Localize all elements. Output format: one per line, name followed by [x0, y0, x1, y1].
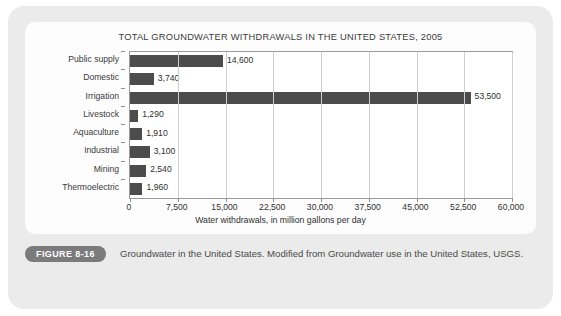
- y-axis-tick: [121, 142, 125, 143]
- bar: [130, 128, 142, 140]
- y-axis-category-label: Industrial: [84, 145, 119, 155]
- y-axis-tick: [121, 106, 125, 107]
- x-axis-tick-label: 52,500: [450, 202, 476, 212]
- bar-value-label: 53,500: [475, 91, 501, 101]
- y-axis-tick: [121, 124, 125, 125]
- chart-panel: TOTAL GROUNDWATER WITHDRAWALS IN THE UNI…: [25, 22, 536, 234]
- figure-number-badge: FIGURE 8-16: [25, 246, 106, 262]
- y-axis-tick: [121, 69, 125, 70]
- bar: [130, 110, 138, 122]
- bar: [130, 55, 223, 67]
- x-axis-title: Water withdrawals, in million gallons pe…: [25, 215, 536, 225]
- bar: [130, 146, 150, 158]
- figure-card: TOTAL GROUNDWATER WITHDRAWALS IN THE UNI…: [8, 6, 553, 309]
- bar-value-label: 1,960: [146, 182, 168, 192]
- x-axis-tick-label: 60,000: [498, 202, 524, 212]
- gridline: [321, 52, 322, 198]
- gridline: [464, 52, 465, 198]
- gridline: [417, 52, 418, 198]
- bar-value-label: 3,100: [154, 146, 176, 156]
- x-axis-tick-label: 45,000: [402, 202, 428, 212]
- x-axis-tick-label: 22,500: [259, 202, 285, 212]
- x-axis-tick-label: 7,500: [166, 202, 188, 212]
- x-axis-tick-label: 15,000: [211, 202, 237, 212]
- bar-value-label: 1,910: [146, 128, 168, 138]
- y-axis-category-label: Public supply: [68, 54, 119, 64]
- bar-value-label: 3,740: [158, 73, 180, 83]
- x-axis-tick-label: 30,000: [307, 202, 333, 212]
- y-axis-category-label: Thermoelectric: [62, 182, 119, 192]
- bar-value-label: 14,600: [227, 55, 253, 65]
- x-axis-tick-labels: 07,50015,00022,50030,00037,50045,00052,5…: [129, 202, 511, 216]
- bar-value-label: 1,290: [142, 109, 164, 119]
- y-axis-tick: [121, 88, 125, 89]
- y-axis-tick: [121, 161, 125, 162]
- y-axis-category-labels: Public supplyDomesticIrrigationLivestock…: [25, 51, 125, 197]
- gridline: [512, 52, 513, 198]
- bar-value-label: 2,540: [150, 164, 172, 174]
- gridline: [178, 52, 179, 198]
- bar: [130, 92, 471, 104]
- y-axis-tick: [121, 179, 125, 180]
- gridline: [226, 52, 227, 198]
- bar: [130, 183, 142, 195]
- y-axis-category-label: Mining: [94, 164, 119, 174]
- gridline: [273, 52, 274, 198]
- bar: [130, 73, 154, 85]
- gridline: [369, 52, 370, 198]
- y-axis-category-label: Domestic: [83, 72, 119, 82]
- y-axis-category-label: Livestock: [83, 109, 119, 119]
- y-axis-category-label: Aquaculture: [73, 127, 119, 137]
- y-axis-category-label: Irrigation: [86, 91, 119, 101]
- x-axis-tick-label: 37,500: [355, 202, 381, 212]
- chart-title: TOTAL GROUNDWATER WITHDRAWALS IN THE UNI…: [25, 32, 536, 42]
- plot-area: 14,6003,74053,5001,2901,9103,1002,5401,9…: [129, 51, 513, 199]
- figure-caption: FIGURE 8-16Groundwater in the United Sta…: [25, 244, 541, 262]
- x-axis-tick-label: 0: [127, 202, 132, 212]
- figure-caption-text: Groundwater in the United States. Modifi…: [120, 248, 523, 259]
- y-axis-tick: [121, 51, 125, 52]
- bar: [130, 165, 146, 177]
